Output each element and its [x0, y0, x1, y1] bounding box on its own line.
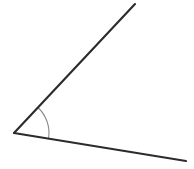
- angle-diagram: [0, 0, 194, 169]
- angle-diagram-canvas: [0, 0, 194, 169]
- diagram-background: [0, 0, 194, 169]
